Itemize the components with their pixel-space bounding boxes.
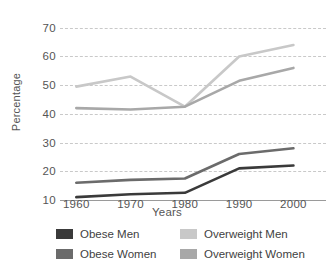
x-axis-title: Years <box>0 206 334 218</box>
legend-item[interactable]: Overweight Men <box>180 228 288 240</box>
chart-legend: Obese MenObese WomenOverweight MenOverwe… <box>56 228 334 270</box>
plot-area: 10203040506070 19601970198019902000 <box>26 10 330 200</box>
legend-swatch-icon <box>180 249 197 259</box>
legend-label: Obese Women <box>80 248 157 260</box>
y-axis-title: Percentage <box>10 54 22 150</box>
legend-label: Overweight Women <box>204 248 305 260</box>
legend-swatch-icon <box>56 249 73 259</box>
legend-label: Overweight Men <box>204 228 288 240</box>
legend-item[interactable]: Obese Men <box>56 228 139 240</box>
series-line <box>76 68 293 110</box>
legend-item[interactable]: Overweight Women <box>180 248 305 260</box>
legend-swatch-icon <box>180 229 197 239</box>
series-line <box>76 148 293 182</box>
legend-swatch-icon <box>56 229 73 239</box>
y-axis-title-wrap: Percentage <box>2 52 24 162</box>
legend-item[interactable]: Obese Women <box>56 248 157 260</box>
legend-label: Obese Men <box>80 228 139 240</box>
line-chart: Percentage 10203040506070 19601970198019… <box>0 0 334 273</box>
series-lines <box>26 10 330 200</box>
